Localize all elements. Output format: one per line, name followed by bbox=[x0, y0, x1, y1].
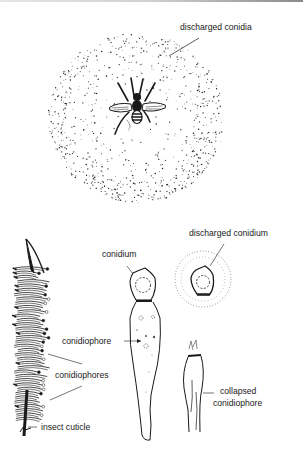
label-discharged-conidium: discharged conidium bbox=[189, 228, 268, 238]
figure-canvas: discharged conidia conidiophores insect … bbox=[0, 0, 303, 464]
cuticle-with-conidiophores bbox=[12, 239, 50, 436]
label-conidium: conidium bbox=[102, 249, 136, 259]
leader-conidiophores-2 bbox=[50, 386, 82, 400]
label-collapsed-line1: collapsed bbox=[220, 386, 257, 396]
leader-conidium bbox=[127, 266, 133, 274]
label-collapsed-line2: conidiophore bbox=[213, 398, 262, 408]
label-conidiophore: conidiophore bbox=[62, 336, 111, 346]
label-discharged-conidia: discharged conidia bbox=[180, 22, 252, 32]
discharged-conidium bbox=[175, 251, 231, 307]
label-conidiophores: conidiophores bbox=[55, 370, 109, 380]
label-insect-cuticle: insect cuticle bbox=[41, 422, 90, 432]
fly-illustration bbox=[110, 78, 165, 134]
leader-discharged-conidium bbox=[210, 244, 224, 266]
leader-discharged-conidia bbox=[169, 38, 199, 56]
leader-conidiophores-1 bbox=[48, 354, 82, 364]
collapsed-conidiophore bbox=[184, 340, 204, 432]
conidiophore-with-conidium bbox=[130, 268, 161, 440]
